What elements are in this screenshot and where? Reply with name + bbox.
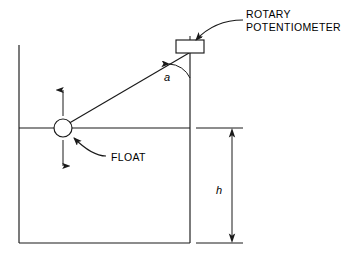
potentiometer-leader-arrow	[196, 20, 243, 40]
angle-label: a	[164, 71, 170, 83]
diagram-canvas: ROTARY POTENTIOMETER FLOAT a h	[0, 0, 348, 261]
float-leader-arrow	[74, 138, 106, 156]
potentiometer-label-line1: ROTARY	[246, 8, 291, 20]
float-circle	[54, 119, 72, 137]
angle-arc	[169, 64, 190, 78]
rotary-potentiometer-box	[176, 40, 204, 53]
float-label: FLOAT	[111, 151, 146, 163]
potentiometer-label-line2: POTENTIOMETER	[246, 21, 341, 33]
float-level-sensor-diagram: ROTARY POTENTIOMETER FLOAT a h	[0, 0, 348, 261]
height-label: h	[216, 184, 222, 196]
